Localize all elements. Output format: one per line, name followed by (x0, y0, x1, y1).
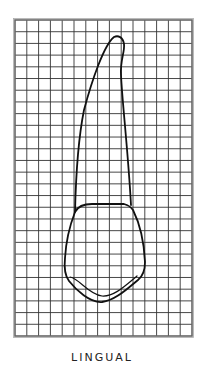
grid-border (15, 20, 192, 336)
view-label: LINGUAL (0, 351, 204, 364)
root-outline (75, 36, 131, 212)
grid-border-outer (14, 19, 194, 338)
grid (15, 20, 192, 336)
tooth-grid-diagram (0, 0, 204, 375)
